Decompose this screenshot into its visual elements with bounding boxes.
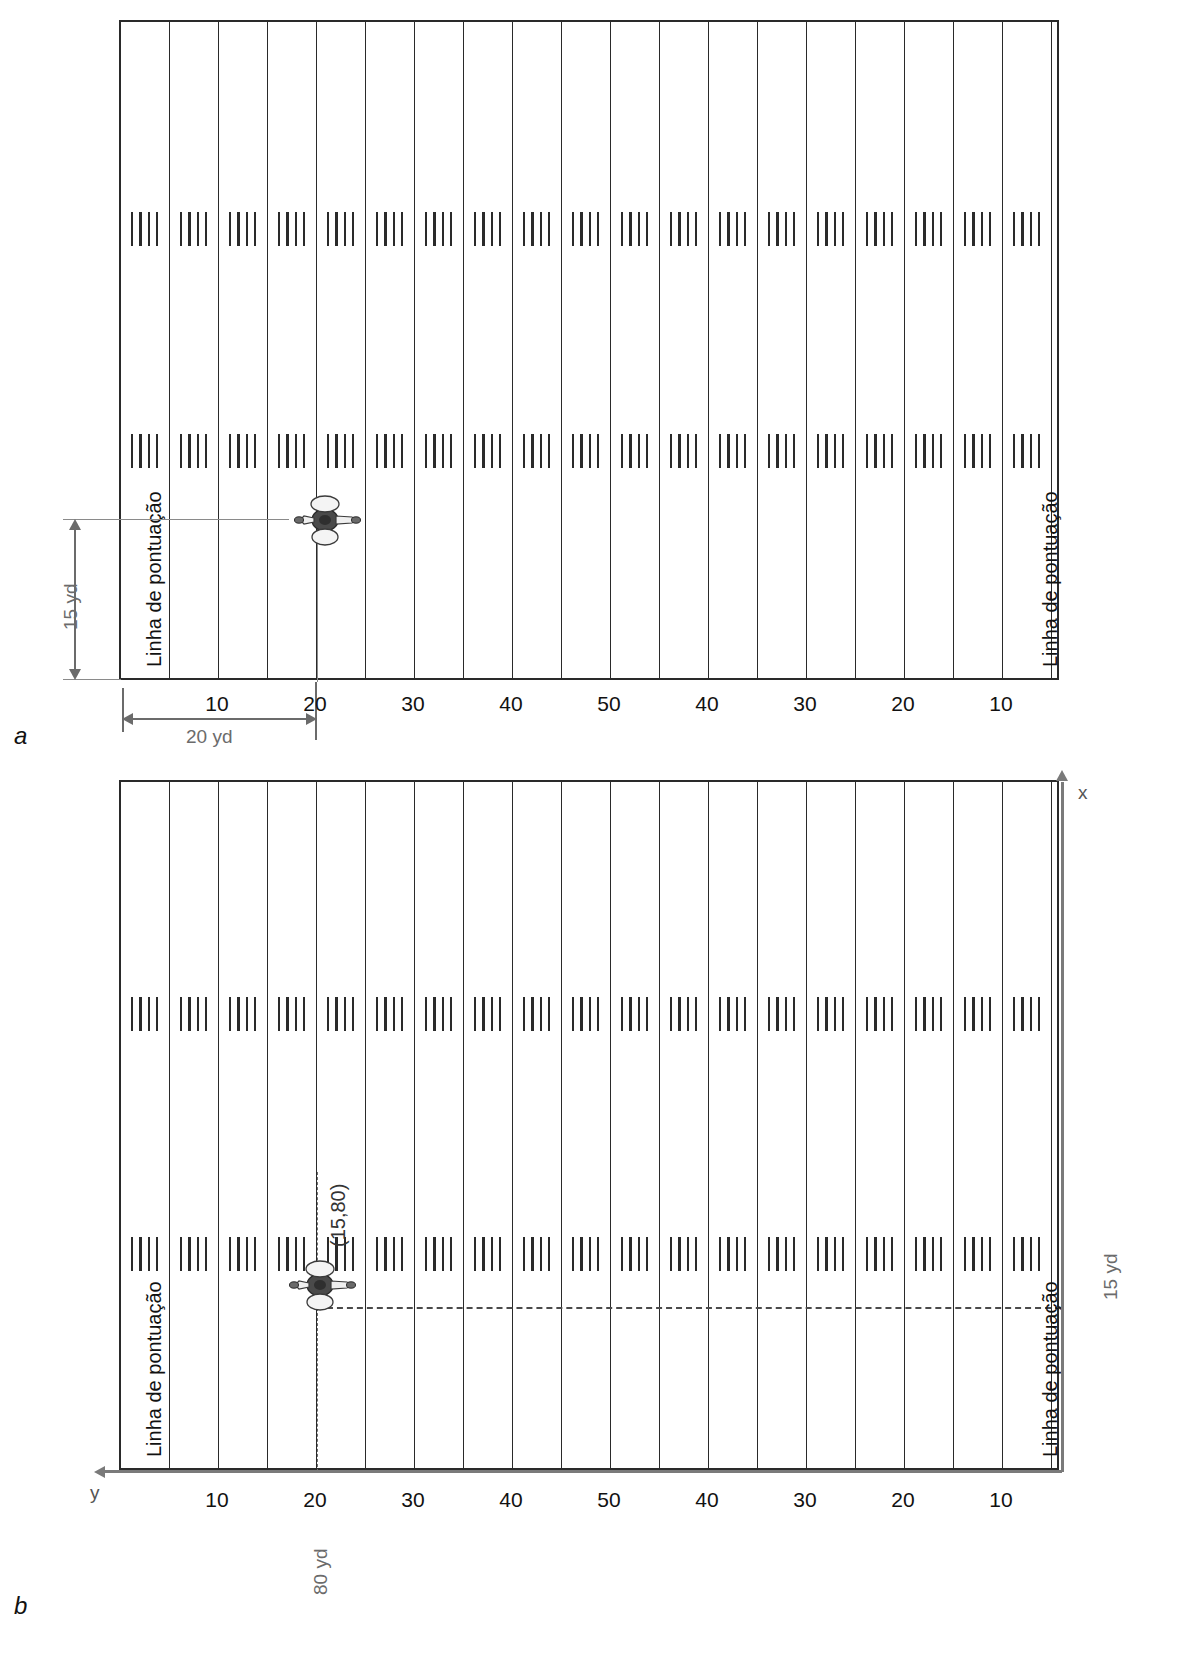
hash-group <box>1013 434 1040 468</box>
hash-group <box>327 997 354 1031</box>
yard-number: 50 <box>597 692 620 716</box>
coordinate-annotation-b: (15,80) <box>327 1184 350 1247</box>
yard-number: 40 <box>499 692 522 716</box>
yard-line <box>562 782 611 1468</box>
player-guide-dashed-horizontal-b <box>317 1307 1061 1309</box>
yard-line <box>317 22 366 678</box>
hash-group <box>866 997 893 1031</box>
hash-group <box>670 212 697 246</box>
hash-group <box>180 997 207 1031</box>
hash-group <box>180 434 207 468</box>
hash-group <box>229 997 256 1031</box>
hash-group <box>474 212 501 246</box>
hash-group <box>229 212 256 246</box>
hash-group <box>376 1237 403 1271</box>
yard-number-row-a: 10 20 30 40 50 40 30 20 10 <box>0 692 1191 720</box>
yard-number: 20 <box>891 1488 914 1512</box>
hash-group <box>523 997 550 1031</box>
hash-group <box>866 1237 893 1271</box>
yard-line <box>562 22 611 678</box>
football-player-icon-a <box>286 490 364 550</box>
yard-line <box>464 782 513 1468</box>
hash-group <box>817 997 844 1031</box>
yard-line <box>758 22 807 678</box>
field-b: (15,80) Linha de pontuação Linha de pont… <box>119 780 1059 1470</box>
hash-group <box>572 212 599 246</box>
hash-group <box>1013 212 1040 246</box>
panel-a: Linha de pontuação Linha de pontuação 15… <box>0 0 1191 760</box>
y-axis-line-b <box>105 1470 1062 1473</box>
yard-line <box>709 782 758 1468</box>
yard-number-row-b: 10 20 30 40 50 40 30 20 10 <box>0 1488 1191 1516</box>
hash-group <box>1013 997 1040 1031</box>
hash-group <box>376 434 403 468</box>
yard-line <box>660 782 709 1468</box>
yard-number: 40 <box>695 1488 718 1512</box>
x-axis-line-b <box>1061 782 1064 1472</box>
hash-group <box>474 997 501 1031</box>
yard-line <box>709 22 758 678</box>
yard-number: 40 <box>695 692 718 716</box>
yard-line <box>660 22 709 678</box>
dimension-label-80yd-b: 80 yd <box>310 1549 332 1595</box>
hash-group <box>768 212 795 246</box>
hash-group <box>131 997 158 1031</box>
field-a: Linha de pontuação Linha de pontuação <box>119 20 1059 680</box>
hash-group <box>474 434 501 468</box>
hash-group <box>964 434 991 468</box>
hash-group <box>915 1237 942 1271</box>
hash-group <box>278 997 305 1031</box>
hash-group <box>621 212 648 246</box>
hash-group <box>768 997 795 1031</box>
hash-group <box>278 212 305 246</box>
football-player-icon-b <box>281 1255 359 1315</box>
hash-group <box>768 1237 795 1271</box>
hash-group <box>131 434 158 468</box>
hash-group <box>621 434 648 468</box>
yard-line <box>954 22 1003 678</box>
yard-line <box>366 22 415 678</box>
panel-letter-b: b <box>14 1592 27 1620</box>
endzone-label-right-a: Linha de pontuação <box>1039 491 1062 667</box>
yard-number: 30 <box>401 1488 424 1512</box>
yard-line <box>268 782 317 1468</box>
yard-number: 10 <box>989 692 1012 716</box>
yard-line <box>856 782 905 1468</box>
dimension-label-15yd-b: 15 yd <box>1100 1254 1122 1300</box>
endzone-label-left-a: Linha de pontuação <box>143 491 166 667</box>
yard-number: 10 <box>205 1488 228 1512</box>
hash-group <box>180 212 207 246</box>
hash-group <box>572 997 599 1031</box>
hash-group <box>670 434 697 468</box>
yard-number: 30 <box>401 692 424 716</box>
hash-group <box>964 212 991 246</box>
hash-group <box>523 212 550 246</box>
yard-line <box>807 782 856 1468</box>
yard-line <box>415 22 464 678</box>
x-axis-label-b: x <box>1078 782 1088 804</box>
hash-group <box>719 434 746 468</box>
player-height-guide-a <box>63 519 289 520</box>
hash-group <box>523 434 550 468</box>
x-axis-arrow-b <box>1056 770 1068 781</box>
yard-line <box>268 22 317 678</box>
hash-group <box>1013 1237 1040 1271</box>
hash-group <box>523 1237 550 1271</box>
yard-line <box>905 22 954 678</box>
hash-group <box>719 1237 746 1271</box>
panel-letter-a: a <box>14 722 27 750</box>
hash-group <box>621 997 648 1031</box>
dimension-arrow-down-a <box>69 669 81 680</box>
hash-group <box>327 212 354 246</box>
hash-group <box>719 212 746 246</box>
hash-group <box>376 997 403 1031</box>
yard-line <box>415 782 464 1468</box>
yard-line <box>219 22 268 678</box>
yard-number: 20 <box>303 692 326 716</box>
yard-line <box>807 22 856 678</box>
hash-group <box>180 1237 207 1271</box>
yard-line <box>905 782 954 1468</box>
hash-group <box>131 212 158 246</box>
hash-group <box>670 1237 697 1271</box>
hash-group <box>131 1237 158 1271</box>
